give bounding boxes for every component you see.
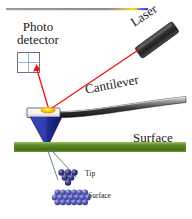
top-gradient-rule	[6, 8, 148, 10]
tip-atoms-label: Tip	[85, 170, 95, 178]
photodetector-label: Photo detector	[8, 20, 68, 47]
tip-atom-cluster	[58, 169, 77, 186]
surface-label: Surface	[133, 131, 173, 144]
laser-beam-reflected	[33, 64, 49, 110]
photodetector-label-line2: detector	[8, 33, 68, 46]
laser-spot	[41, 107, 56, 113]
surface-atoms-label: Surface	[88, 192, 111, 200]
laser-diode-body	[135, 21, 180, 59]
surface-atom-lattice	[52, 190, 91, 206]
afm-schematic-figure: Photo detector Laser Cantilever Surface …	[0, 0, 192, 219]
cantilever-beam	[57, 97, 186, 118]
photodetector-label-line1: Photo	[8, 20, 68, 33]
